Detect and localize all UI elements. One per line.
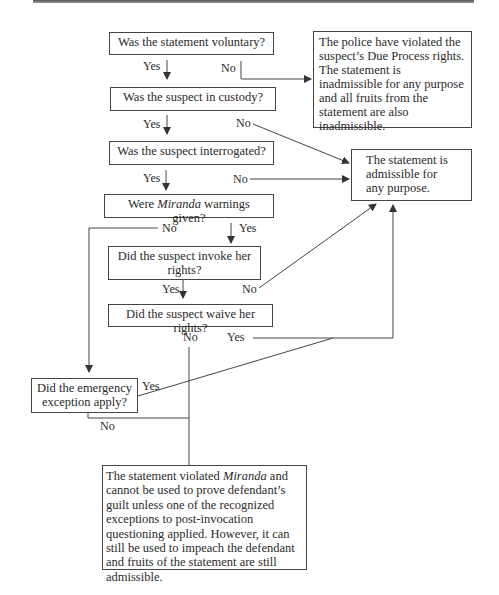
node-miranda-warnings: Were Miranda warnings given? [104, 194, 274, 218]
node-voluntary: Was the statement voluntary? [109, 32, 274, 55]
label-yes: Yes [239, 222, 256, 235]
label-yes: Yes [143, 60, 160, 73]
label-no: No [221, 62, 236, 75]
label-yes: Yes [143, 118, 160, 131]
node-invoke-rights: Did the suspect invoke her rights? [108, 246, 261, 280]
miranda-em: Miranda [157, 197, 201, 211]
label-yes: Yes [227, 331, 244, 344]
node-emergency-exception: Did the emergency exception apply? [31, 378, 138, 413]
node-waive-rights: Did the suspect waive her rights? [108, 304, 273, 327]
label-no: No [162, 222, 177, 235]
violated-pre: The statement violated [106, 469, 223, 483]
node-interrogated: Was the suspect interrogated? [109, 141, 274, 165]
node-admissible: The statement is admissible for any purp… [351, 149, 472, 201]
violated-em: Miranda [223, 469, 267, 483]
label-yes: Yes [143, 172, 160, 185]
label-yes: Yes [142, 380, 159, 393]
label-no: No [242, 283, 257, 296]
label-no: No [183, 331, 198, 344]
label-no: No [100, 420, 115, 433]
violated-post: and cannot be used to prove defendant’s … [106, 469, 295, 584]
miranda-pre: Were [128, 197, 157, 211]
label-no: No [233, 173, 248, 186]
label-no: No [236, 117, 251, 130]
node-miranda-violated: The statement violated Miranda and canno… [102, 465, 307, 570]
node-custody: Was the suspect in custody? [110, 87, 276, 111]
label-yes: Yes [162, 283, 179, 296]
node-due-process-violation: The police have violated the suspect’s D… [313, 31, 472, 128]
